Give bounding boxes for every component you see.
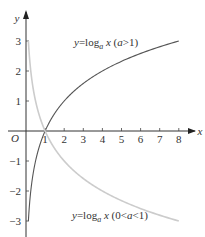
x-axis-label: x <box>197 125 203 137</box>
y-tick-label: −1 <box>9 155 21 167</box>
x-tick-label: 7 <box>157 133 163 145</box>
curve-label-a-gt-1: y=loga x (a>1) <box>73 36 138 51</box>
x-tick-label: 1 <box>42 133 48 145</box>
x-tick-label: 6 <box>138 133 144 145</box>
y-tick-label: −3 <box>9 215 21 227</box>
log-function-chart: xyO12345678321−1−2−3y=loga x (a>1)y=loga… <box>0 0 205 237</box>
origin-label: O <box>11 132 19 144</box>
y-tick-label: 3 <box>16 35 22 47</box>
y-tick-label: 2 <box>16 65 22 77</box>
x-tick-label: 3 <box>81 133 87 145</box>
x-tick-label: 4 <box>100 133 106 145</box>
y-tick-label: −2 <box>9 185 21 197</box>
x-tick-label: 2 <box>61 133 67 145</box>
y-axis-label: y <box>14 12 20 24</box>
labels: xyO12345678321−1−2−3y=loga x (a>1)y=loga… <box>9 12 202 227</box>
x-tick-label: 8 <box>176 133 182 145</box>
curve-label-a-lt-1: y=loga x (0<a<1) <box>71 209 148 224</box>
x-axis-arrow-icon <box>188 128 196 134</box>
x-tick-label: 5 <box>119 133 125 145</box>
y-axis-arrow-icon <box>23 10 29 19</box>
y-tick-label: 1 <box>16 95 22 107</box>
